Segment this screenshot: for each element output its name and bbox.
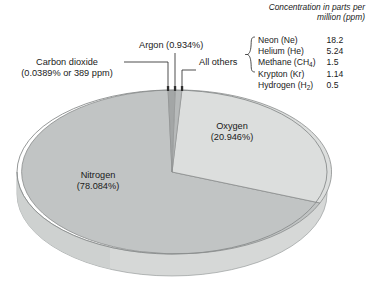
- callout-label-all-others: All others: [199, 57, 237, 68]
- callout-label-argon: Argon (0.934%): [139, 40, 203, 51]
- gas-ppm: 1.5: [327, 57, 349, 68]
- formula-subscript: 2: [307, 84, 311, 91]
- leader-carbon-dioxide: [124, 62, 168, 90]
- table-row: Helium (He) 5.24: [258, 46, 349, 57]
- trace-gas-table: Neon (Ne) 18.2 Helium (He) 5.24 Methane …: [258, 35, 349, 91]
- table-row: Methane (CH4) 1.5: [258, 57, 349, 68]
- oxygen-name: Oxygen: [216, 121, 248, 131]
- table-row: Hydrogen (H2) 0.5: [258, 80, 349, 91]
- leader-all-others: [182, 70, 196, 90]
- table-row: Neon (Ne) 18.2: [258, 35, 349, 46]
- callout-label-carbon-dioxide: Carbon dioxide (0.0389% or 389 ppm): [6, 57, 128, 79]
- trace-table-header: Concentration in parts per million (ppm): [258, 2, 365, 23]
- gas-ppm: 0.5: [327, 80, 349, 91]
- nitrogen-name: Nitrogen: [81, 170, 116, 180]
- formula-subscript: 4: [309, 61, 313, 68]
- carbon-dioxide-value: (0.0389% or 389 ppm): [21, 68, 112, 78]
- table-row: Krypton (Kr) 1.14: [258, 69, 349, 80]
- gas-name: Methane (CH4): [258, 57, 327, 68]
- gas-ppm: 5.24: [327, 46, 349, 57]
- gas-name: Helium (He): [258, 46, 327, 57]
- gas-name: Krypton (Kr): [258, 69, 327, 80]
- atmosphere-composition-figure: Concentration in parts per million (ppm)…: [0, 0, 367, 287]
- oxygen-value: (20.946%): [211, 132, 253, 142]
- carbon-dioxide-name: Carbon dioxide: [36, 57, 98, 67]
- trace-table-brace: [246, 37, 255, 72]
- gas-ppm: 1.14: [327, 69, 349, 80]
- gas-name: Hydrogen (H2): [258, 80, 327, 91]
- wedge-label-nitrogen: Nitrogen (78.084%): [56, 170, 140, 192]
- nitrogen-value: (78.084%): [77, 181, 119, 191]
- gas-name: Neon (Ne): [258, 35, 327, 46]
- wedge-label-oxygen: Oxygen (20.946%): [196, 121, 268, 143]
- leader-lines: [124, 53, 196, 90]
- gas-ppm: 18.2: [327, 35, 349, 46]
